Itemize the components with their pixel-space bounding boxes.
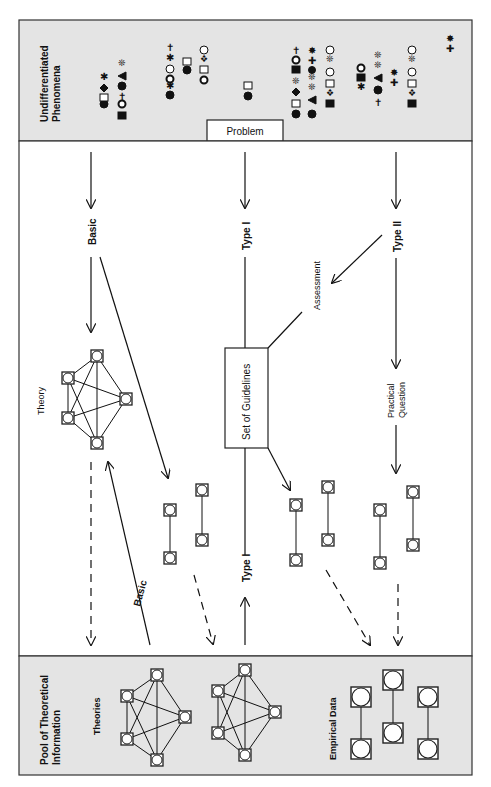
- research-flow-diagram: Undifferentiated Phenomena ✱ ✝❊ ✱✱✝ ❖ ✝❊…: [0, 0, 491, 787]
- theory-label: Theory: [36, 386, 46, 415]
- assessment-label: Assessment: [312, 260, 322, 310]
- svg-text:Information: Information: [51, 710, 62, 765]
- svg-text:Undifferentiated: Undifferentiated: [39, 45, 50, 122]
- svg-text:❊: ❊: [292, 76, 300, 86]
- svg-text:✝: ✝: [166, 42, 174, 53]
- theories-label: Theories: [92, 697, 102, 735]
- empirical-data-label: Empirical Data: [328, 696, 338, 760]
- guidelines-label: Set of Guidelines: [241, 364, 252, 440]
- type1-label: Type I: [241, 222, 252, 250]
- svg-text:✚: ✚: [308, 55, 316, 66]
- svg-text:❊: ❊: [308, 82, 316, 92]
- svg-text:❊: ❊: [374, 50, 382, 60]
- svg-text:✝: ✝: [374, 97, 382, 108]
- svg-text:❊: ❊: [326, 54, 334, 64]
- svg-text:Pool of Theoretical: Pool of Theoretical: [39, 675, 50, 765]
- svg-text:❊: ❊: [308, 72, 316, 82]
- svg-text:✝: ✝: [292, 45, 300, 56]
- type2-label: Type II: [392, 221, 403, 252]
- svg-text:❖: ❖: [200, 54, 208, 64]
- svg-text:✱: ✱: [357, 81, 365, 92]
- svg-text:✝: ✝: [118, 91, 126, 102]
- svg-text:✚: ✚: [390, 77, 398, 88]
- svg-text:✱: ✱: [100, 71, 108, 82]
- svg-text:❖: ❖: [326, 88, 334, 98]
- svg-text:Question: Question: [397, 382, 407, 418]
- basic-label: Basic: [87, 218, 98, 245]
- problem-label: Problem: [226, 126, 263, 137]
- svg-text:✱: ✱: [166, 52, 174, 63]
- svg-text:Phenomena: Phenomena: [51, 65, 62, 122]
- svg-text:❊: ❊: [374, 60, 382, 70]
- svg-text:✚: ✚: [446, 43, 454, 54]
- svg-text:Practical: Practical: [386, 383, 396, 418]
- type1-return-label: Type I: [241, 554, 252, 582]
- practical-question-label: Practical Question: [386, 382, 407, 418]
- svg-text:❖: ❖: [408, 88, 416, 98]
- svg-text:❊: ❊: [408, 54, 416, 64]
- svg-text:❊: ❊: [118, 58, 126, 68]
